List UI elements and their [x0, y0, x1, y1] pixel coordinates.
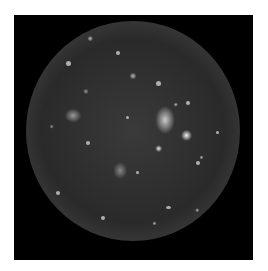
crater: [101, 216, 105, 220]
crater: [116, 51, 120, 55]
crater: [86, 141, 90, 145]
crater: [66, 61, 71, 66]
crater: [156, 81, 161, 86]
crater: [126, 116, 129, 119]
image-frame: [14, 15, 253, 260]
crater: [166, 206, 171, 209]
moon-disk: [26, 21, 240, 241]
crater: [196, 161, 200, 165]
crater: [186, 101, 190, 105]
crater: [136, 171, 139, 174]
crater: [56, 191, 60, 195]
crater: [216, 131, 219, 134]
